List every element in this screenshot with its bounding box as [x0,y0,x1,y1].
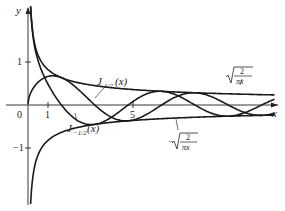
svg-text:−: − [168,136,173,146]
origin-label: 0 [17,109,22,120]
svg-text:πx: πx [182,143,190,152]
svg-text:(x): (x) [87,122,100,135]
y-tick-label-1: 1 [17,56,22,67]
svg-text:πx: πx [236,77,244,86]
x-tick-label-5: 5 [130,109,135,120]
svg-text:−1/2: −1/2 [73,129,87,137]
envelope-negative-label: − 2 πx [168,133,198,152]
bessel-chart: y x 0 1 5 1 −1 J 1/2 (x) J −1/2 (x) 2 πx… [0,0,285,211]
x-axis-label: x [271,107,277,119]
svg-text:2: 2 [240,67,244,76]
x-tick-label-1: 1 [45,109,50,120]
axes [6,8,278,205]
y-tick-label-m1: −1 [13,142,24,153]
svg-text:1/2: 1/2 [104,82,113,90]
svg-text:J: J [97,75,103,87]
y-arrow-icon [26,7,31,14]
svg-text:(x): (x) [115,75,128,88]
j-half-label: J 1/2 (x) [97,75,128,90]
j-minus-half-curve [31,7,275,125]
j-minus-half-label: J −1/2 (x) [67,122,100,137]
svg-text:2: 2 [186,133,190,142]
y-axis-label: y [15,4,21,16]
envelope-positive-label: 2 πx [226,67,253,86]
